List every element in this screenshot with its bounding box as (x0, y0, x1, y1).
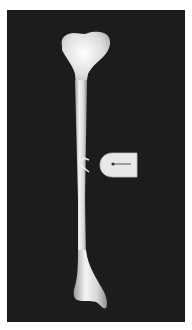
bone-proximal-head (62, 32, 110, 86)
bone-illustration (0, 0, 192, 330)
bone-distal-end (74, 250, 107, 308)
callout-label (100, 153, 137, 177)
bone-shaft (75, 80, 87, 255)
arrow-head-icon (111, 162, 114, 165)
